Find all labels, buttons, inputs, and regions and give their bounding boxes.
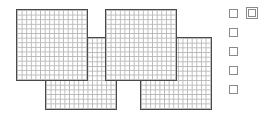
grid-panel-top-left[interactable]	[16, 9, 88, 81]
checkbox-5[interactable]	[229, 66, 238, 75]
checkbox-3[interactable]	[229, 28, 238, 37]
checkbox-4[interactable]	[229, 47, 238, 56]
checkbox-2-inner	[248, 9, 256, 17]
diagram-canvas	[0, 0, 273, 118]
grid-panel-top-right[interactable]	[105, 9, 177, 81]
checkbox-1[interactable]	[229, 9, 238, 18]
checkbox-6[interactable]	[229, 85, 238, 94]
checkbox-2[interactable]	[246, 7, 258, 19]
